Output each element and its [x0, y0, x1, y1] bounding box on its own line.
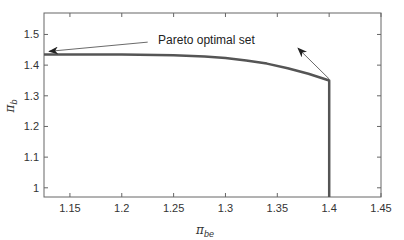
pareto-curve	[44, 54, 329, 197]
y-tick-label: 1.1	[24, 151, 39, 163]
y-tick-label: 1	[33, 182, 39, 194]
y-tick-label: 1.5	[24, 28, 39, 40]
pareto-chart: 1.151.21.251.31.351.41.4511.11.21.31.41.…	[0, 0, 404, 240]
y-tick-label: 1.4	[24, 59, 39, 71]
annotation-text: Pareto optimal set	[158, 33, 255, 47]
x-tick-label: 1.4	[322, 202, 337, 214]
x-tick-label: 1.45	[370, 202, 391, 214]
x-tick-label: 1.25	[163, 202, 184, 214]
y-tick-label: 1.3	[24, 90, 39, 102]
x-tick-label: 1.2	[114, 202, 129, 214]
y-tick-label: 1.2	[24, 120, 39, 132]
x-tick-label: 1.3	[218, 202, 233, 214]
x-axis-label: πbe	[195, 223, 214, 239]
data-series	[44, 54, 329, 197]
y-axis-label: πb	[3, 100, 19, 114]
x-tick-label: 1.35	[267, 202, 288, 214]
x-tick-label: 1.15	[59, 202, 80, 214]
annotation-arrow	[49, 42, 148, 51]
svg-text:πb: πb	[3, 100, 19, 114]
